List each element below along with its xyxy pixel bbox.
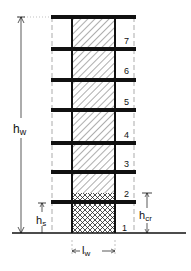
- floor-label-1: 1: [122, 223, 127, 233]
- hw-label: hw: [13, 122, 27, 137]
- slab-5: [51, 108, 136, 112]
- slab-2: [51, 200, 136, 204]
- wall-diagram: 7 6 5 4 3 2 1 hw hs hcr lw: [0, 0, 191, 271]
- slab-roof: [51, 15, 136, 19]
- wall-critical-region: [72, 193, 115, 233]
- floor-label-2: 2: [124, 189, 129, 199]
- slab-4: [51, 141, 136, 145]
- floor-label-7: 7: [124, 36, 129, 46]
- slab-7: [51, 47, 136, 51]
- floor-label-6: 6: [124, 66, 129, 76]
- hcr-label: hcr: [139, 209, 152, 223]
- slab-6: [51, 78, 136, 82]
- lw-label: lw: [82, 244, 90, 258]
- floor-label-3: 3: [124, 159, 129, 169]
- floor-label-5: 5: [124, 97, 129, 107]
- floor-label-4: 4: [124, 130, 129, 140]
- hs-label: hs: [36, 214, 46, 228]
- wall-elastic-region: [72, 17, 115, 193]
- slab-3: [51, 170, 136, 174]
